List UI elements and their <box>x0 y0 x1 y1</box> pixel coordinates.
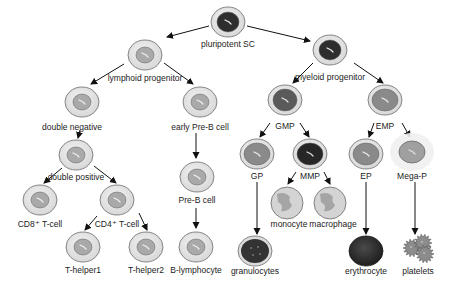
label-cd8: CD8⁺ T-cell <box>18 219 63 229</box>
arrow-gmp-to-gp <box>260 123 270 137</box>
label-dn: double negative <box>42 122 102 132</box>
label-preb: Pre-B cell <box>179 195 216 205</box>
cell-macro <box>314 187 346 219</box>
label-myel: myeloid progenitor <box>295 72 365 82</box>
platelet-granule <box>423 252 425 254</box>
label-gran: granulocytes <box>231 266 279 276</box>
cell-cd8 <box>23 185 57 215</box>
cell-megap <box>390 133 434 171</box>
arrow-psc-to-myel <box>247 26 310 41</box>
cell-emp <box>368 85 402 115</box>
label-epb: early Pre-B cell <box>171 122 229 132</box>
label-mono: monocyte <box>271 219 308 229</box>
label-emp: EMP <box>376 121 395 131</box>
cell-lymph <box>128 40 162 70</box>
granule <box>257 246 259 248</box>
label-ep: EP <box>360 171 372 181</box>
arrow-cd4-to-th2 <box>139 213 147 230</box>
label-cd4: CD4⁺ T-cell <box>95 219 140 229</box>
cell-ep <box>349 139 383 169</box>
label-gp: GP <box>251 171 264 181</box>
arrow-mmp-to-macro <box>324 172 330 184</box>
label-psc: pluripotent SC <box>201 39 255 49</box>
granule <box>259 253 261 255</box>
cell-mmp <box>293 139 327 169</box>
cell-gran <box>238 236 272 266</box>
cell-eryth <box>349 236 383 266</box>
platelet-granule <box>410 246 412 248</box>
granule <box>252 254 254 256</box>
hematopoiesis-diagram: pluripotent SClymphoid progenitormyeloid… <box>0 0 461 290</box>
label-th2: T-helper2 <box>128 265 164 275</box>
cell-dn <box>65 87 99 117</box>
arrow-gmp-to-mmp <box>300 123 309 137</box>
cell-gmp <box>268 85 302 115</box>
cell-th1 <box>66 232 100 262</box>
cell-dp <box>59 140 93 170</box>
diagram-canvas: pluripotent SClymphoid progenitormyeloid… <box>0 0 461 290</box>
label-macro: macrophage <box>309 219 357 229</box>
granulocyte-nucleus <box>241 239 269 263</box>
cell-th2 <box>129 232 163 262</box>
erythrocyte-icon <box>349 236 383 266</box>
label-blym: B-lymphocyte <box>170 265 222 275</box>
arrow-psc-to-lymph <box>167 26 209 37</box>
cell-myel <box>313 35 347 65</box>
label-megap: Mega-P <box>397 171 427 181</box>
label-th1: T-helper1 <box>65 265 101 275</box>
cell-mono <box>271 187 303 219</box>
cell-gp <box>240 139 274 169</box>
arrow-mmp-to-mono <box>288 172 296 184</box>
label-eryth: erythrocyte <box>345 266 387 276</box>
cell-preb <box>180 162 214 192</box>
label-gmp: GMP <box>275 121 295 131</box>
cell-plt <box>403 234 434 263</box>
cell-cd4 <box>100 185 134 215</box>
label-dp: double positive <box>48 172 105 182</box>
platelet-granule <box>421 241 423 243</box>
cell-blym <box>179 232 213 262</box>
label-lymph: lymphoid progenitor <box>108 73 183 83</box>
cell-psc <box>211 7 245 37</box>
cell-epb <box>183 87 217 117</box>
label-mmp: MMP <box>300 171 320 181</box>
label-plt: platelets <box>402 266 434 276</box>
arrow-emp-to-ep <box>369 123 374 137</box>
granule <box>250 247 252 249</box>
